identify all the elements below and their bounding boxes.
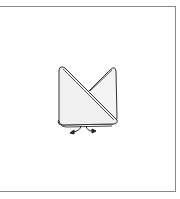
arrow-right-head-icon: [92, 129, 96, 133]
arrow-left-head-icon: [70, 130, 74, 134]
napkin-shape: [58, 67, 117, 127]
folded-napkin-illustration: [0, 0, 180, 199]
